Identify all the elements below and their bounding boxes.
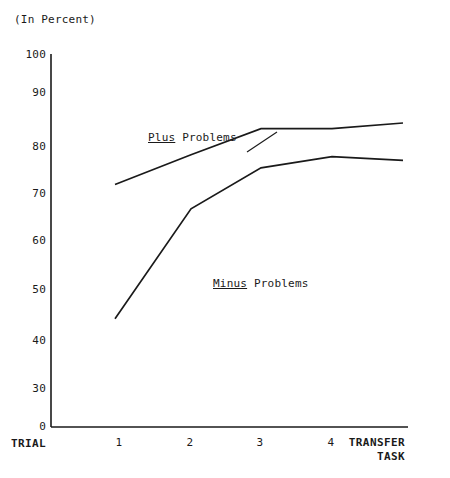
- series-annotation-minus-problems: Minus Problems: [213, 277, 309, 290]
- minus-annotation-plain-word: Problems: [254, 277, 309, 290]
- y-tick-label-90: 90: [12, 86, 46, 99]
- plot-area: [0, 0, 450, 478]
- x-axis-label: TRIAL: [11, 437, 46, 450]
- x-tick-label-1: 1: [116, 436, 123, 449]
- y-tick-label-60: 60: [12, 234, 46, 247]
- x-tick-label-4: 4: [328, 436, 335, 449]
- transfer-task-line-1: TRANSFER: [349, 436, 405, 450]
- x-tick-label-transfer-task: TRANSFER TASK: [349, 436, 405, 464]
- y-tick-label-70: 70: [12, 187, 46, 200]
- plus-annotation-plain-word: Problems: [182, 131, 237, 144]
- y-tick-label-0: 0: [12, 420, 46, 433]
- x-tick-label-2: 2: [187, 436, 194, 449]
- y-tick-label-80: 80: [12, 140, 46, 153]
- series-line-minus-problems: [115, 157, 403, 319]
- y-tick-label-100: 100: [12, 48, 46, 61]
- y-tick-label-50: 50: [12, 283, 46, 296]
- plus-annotation-leader-line: [247, 132, 277, 152]
- x-tick-label-3: 3: [257, 436, 264, 449]
- y-tick-label-30: 30: [12, 382, 46, 395]
- plus-annotation-underlined-word: Plus: [148, 131, 175, 144]
- y-tick-label-40: 40: [12, 334, 46, 347]
- transfer-task-line-2: TASK: [349, 450, 405, 464]
- chart-container: (In Percent) 100 90 80 70 60 50 40 30 0 …: [0, 0, 450, 478]
- minus-annotation-underlined-word: Minus: [213, 277, 247, 290]
- series-annotation-plus-problems: Plus Problems: [148, 131, 237, 144]
- minus-annotation-space: [247, 277, 254, 290]
